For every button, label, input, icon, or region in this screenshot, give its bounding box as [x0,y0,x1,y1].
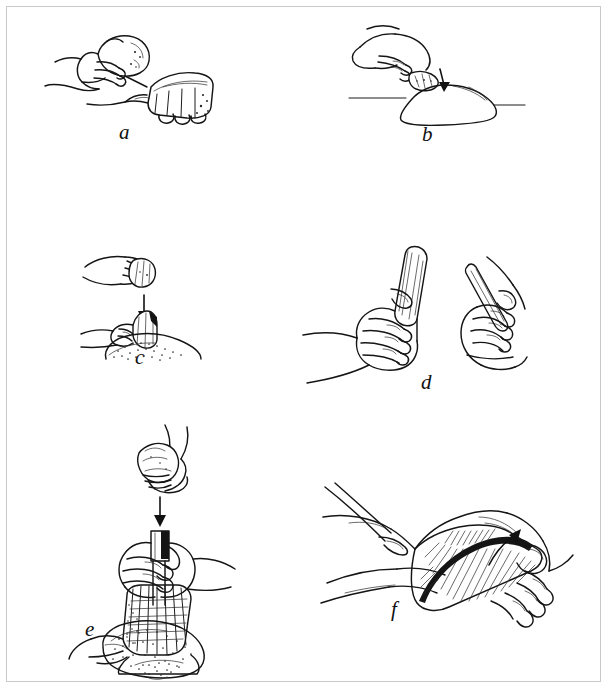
figure-frame: a [6,6,601,682]
panel-d: d [299,241,529,391]
panel-a-label: a [119,122,130,143]
panel-d-drawing [299,241,529,391]
panel-b-drawing [327,23,532,128]
panel-e-anvil-stone [89,619,219,681]
panel-f: f [329,487,579,627]
panel-b-label: b [422,124,433,145]
panel-e-anvil-drawing [89,619,219,681]
panel-c-drawing [73,239,243,361]
panel-d-label: d [421,372,432,393]
panel-a-drawing [35,21,225,126]
panel-a: a [35,21,225,126]
figure-caption [44,688,574,697]
panel-f-drawing [329,487,579,627]
panel-c-label: c [135,347,144,368]
panel-c: c [73,239,243,361]
panel-b: b [327,23,532,128]
panel-f-label: f [391,599,397,620]
